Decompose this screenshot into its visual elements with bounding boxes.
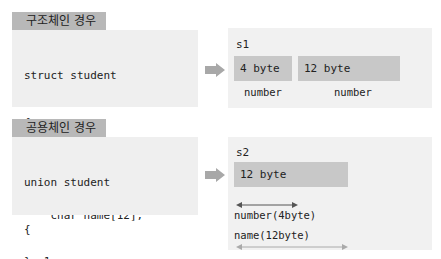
cell-label: number — [334, 86, 372, 98]
memory-cell-shared: 12 byte — [234, 162, 348, 187]
dimension-label: number(4byte) — [234, 209, 316, 221]
union-memory-panel: s2 12 byte number(4byte) name(12byte) — [228, 137, 432, 250]
struct-memory-panel: s1 4 byte 12 byte number number — [228, 28, 432, 108]
double-arrow-icon — [236, 243, 348, 251]
code-line: union student — [24, 175, 198, 191]
memory-cell-name: 12 byte — [298, 56, 400, 81]
code-line: struct student — [24, 68, 198, 84]
double-arrow-icon — [236, 201, 298, 209]
dimension-label: name(12byte) — [234, 229, 310, 241]
cell-label: number — [244, 86, 282, 98]
right-arrow-icon — [205, 168, 225, 182]
union-code-block: union student { int number; char name[12… — [12, 137, 198, 215]
code-line: { — [24, 222, 198, 238]
variable-name: s2 — [236, 146, 249, 159]
variable-name: s1 — [236, 38, 249, 51]
memory-cell-number: 4 byte — [234, 56, 292, 81]
struct-header-tab: 구조체인 경우 — [12, 12, 106, 30]
struct-code-block: struct student { int number; char name[1… — [12, 30, 198, 107]
union-header-tab: 공용체인 경우 — [12, 119, 106, 137]
right-arrow-icon — [205, 63, 225, 77]
